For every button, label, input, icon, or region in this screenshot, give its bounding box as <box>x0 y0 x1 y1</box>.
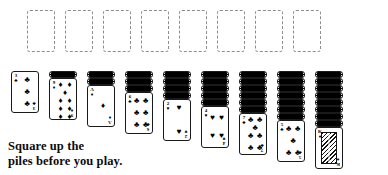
card-pip-group: ♦♦♦♦♦♦♦♦♦ <box>56 81 74 117</box>
face-up-card-6-club[interactable]: 6♣6♣♣♣♣♣♣♣ <box>125 92 153 134</box>
face-up-card-k-spade[interactable]: K♠K♠ <box>315 127 343 169</box>
face-down-card[interactable] <box>163 71 191 78</box>
face-down-card[interactable] <box>201 92 229 99</box>
face-down-card[interactable] <box>239 99 267 106</box>
face-down-card[interactable] <box>49 71 77 78</box>
card-pip-group: ♥♥ <box>170 102 188 138</box>
face-up-card-3-club[interactable]: 3♣3♣♣♣♣ <box>11 71 39 113</box>
face-down-card[interactable] <box>315 120 343 127</box>
face-down-card[interactable] <box>239 106 267 113</box>
face-up-card-5-club[interactable]: 5♣5♣♣♣♣♣♣ <box>277 120 305 162</box>
face-up-card-4-heart[interactable]: 4♥4♥♥♥♥♥ <box>201 106 229 148</box>
suit-club-icon: ♣ <box>257 144 262 152</box>
suit-heart-icon: ♥ <box>177 128 182 136</box>
card-pip-group: ♣♣♣♣♣♣♣ <box>246 116 264 152</box>
face-down-card[interactable] <box>277 106 305 113</box>
suit-club-icon: ♣ <box>286 149 291 157</box>
suit-club-icon: ♣ <box>143 121 148 129</box>
suit-heart-icon: ♥ <box>210 132 215 140</box>
caption-line-1: Square up the <box>8 139 158 154</box>
face-down-card[interactable] <box>201 99 229 106</box>
face-down-card[interactable] <box>125 85 153 92</box>
face-down-card[interactable] <box>315 106 343 113</box>
face-down-card[interactable] <box>87 71 115 78</box>
suit-club-icon: ♣ <box>143 97 148 105</box>
face-down-card[interactable] <box>201 78 229 85</box>
card-pip-group: ♣♣♣ <box>18 74 36 110</box>
suit-diamond-icon: ♦ <box>58 81 62 89</box>
face-down-card[interactable] <box>277 113 305 120</box>
card-pip-group: ♦ <box>94 88 112 124</box>
court-card-portrait <box>321 132 337 164</box>
figure-caption: Square up the piles before you play. <box>8 139 158 169</box>
face-down-card[interactable] <box>277 99 305 106</box>
suit-club-icon: ♣ <box>290 137 295 145</box>
card-pip-group: ♣♣♣♣♣ <box>284 123 302 159</box>
suit-diamond-icon: ♦ <box>58 113 62 121</box>
face-down-card[interactable] <box>163 92 191 99</box>
card-pip-group: ♥♥♥♥ <box>208 109 226 145</box>
face-down-card[interactable] <box>87 78 115 85</box>
suit-diamond-icon: ♦ <box>63 89 67 97</box>
face-down-card[interactable] <box>315 92 343 99</box>
face-down-card[interactable] <box>201 71 229 78</box>
suit-heart-icon: ♥ <box>219 132 224 140</box>
face-down-card[interactable] <box>315 71 343 78</box>
suit-diamond-icon: ♦ <box>101 102 105 110</box>
suit-club-icon: ♣ <box>286 125 291 133</box>
card-pip-group: ♣♣♣♣♣♣ <box>132 95 150 131</box>
suit-diamond-icon: ♦ <box>67 81 71 89</box>
suit-diamond-icon: ♦ <box>67 113 71 121</box>
face-up-card-2-heart[interactable]: 2♥2♥♥♥ <box>163 99 191 141</box>
suit-club-icon: ♣ <box>295 149 300 157</box>
suit-club-icon: ♣ <box>143 109 148 117</box>
face-down-card[interactable] <box>239 78 267 85</box>
face-down-card[interactable] <box>163 85 191 92</box>
suit-club-icon: ♣ <box>134 109 139 117</box>
face-up-card-7-club[interactable]: 7♣7♣♣♣♣♣♣♣♣ <box>239 113 267 155</box>
face-down-card[interactable] <box>315 78 343 85</box>
suit-club-icon: ♣ <box>295 125 300 133</box>
suit-club-icon: ♣ <box>24 100 29 108</box>
suit-heart-icon: ♥ <box>219 114 224 122</box>
suit-club-icon: ♣ <box>24 88 29 96</box>
face-down-card[interactable] <box>277 71 305 78</box>
suit-club-icon: ♣ <box>248 132 253 140</box>
face-up-card-a-diamond[interactable]: A♦A♦♦ <box>87 85 115 127</box>
face-down-card[interactable] <box>163 78 191 85</box>
suit-club-icon: ♣ <box>134 97 139 105</box>
face-down-card[interactable] <box>277 85 305 92</box>
suit-club-icon: ♣ <box>24 76 29 84</box>
face-up-card-9-diamond[interactable]: 9♦9♦♦♦♦♦♦♦♦♦♦ <box>49 78 77 120</box>
face-down-card[interactable] <box>125 71 153 78</box>
face-down-card[interactable] <box>239 71 267 78</box>
suit-heart-icon: ♥ <box>210 114 215 122</box>
face-down-card[interactable] <box>315 113 343 120</box>
face-down-card[interactable] <box>239 85 267 92</box>
suit-club-icon: ♣ <box>257 132 262 140</box>
face-down-card[interactable] <box>125 78 153 85</box>
suit-club-icon: ♣ <box>248 144 253 152</box>
face-down-card[interactable] <box>239 92 267 99</box>
face-down-card[interactable] <box>315 85 343 92</box>
suit-club-icon: ♣ <box>134 121 139 129</box>
suit-heart-icon: ♥ <box>177 104 182 112</box>
face-down-card[interactable] <box>201 85 229 92</box>
caption-line-2: piles before you play. <box>8 154 158 169</box>
solitaire-board-diagram: 3♣3♣♣♣♣9♦9♦♦♦♦♦♦♦♦♦♦A♦A♦♦6♣6♣♣♣♣♣♣♣2♥2♥♥… <box>0 0 388 175</box>
face-down-card[interactable] <box>315 99 343 106</box>
face-down-card[interactable] <box>277 78 305 85</box>
face-down-card[interactable] <box>277 92 305 99</box>
